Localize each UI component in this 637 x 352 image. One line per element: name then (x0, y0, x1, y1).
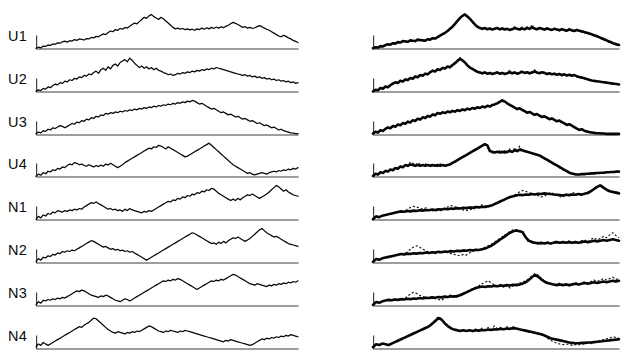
panel-axis (37, 293, 298, 306)
panel-axis (374, 36, 619, 49)
fitted-trace (373, 318, 619, 347)
panel-row-u1: U1 (0, 13, 637, 55)
panel-axis (374, 250, 619, 263)
fitted-trace (373, 59, 619, 91)
panel-row-n2: N2 (0, 227, 637, 269)
fitted-trace (373, 100, 619, 133)
residual-overlay-trace (373, 185, 619, 220)
panel-axis (37, 250, 298, 263)
observed-trace (36, 58, 298, 91)
panel-axis (37, 336, 298, 349)
panel-row-n1: N1 (0, 184, 637, 226)
panel-axis (37, 164, 298, 177)
fitted-trace (373, 185, 619, 219)
figure-root: U1U2U3U4N1N2N3N4 (0, 0, 637, 352)
panel-axis (37, 79, 298, 92)
panel-right-u4 (373, 141, 619, 181)
panel-left-n2 (36, 227, 298, 267)
panel-right-n3 (373, 270, 619, 310)
panel-right-u1 (373, 13, 619, 53)
panel-row-n3: N3 (0, 270, 637, 312)
panel-axis (374, 207, 619, 220)
panel-left-n1 (36, 184, 298, 224)
observed-trace (36, 14, 298, 48)
panel-right-u3 (373, 99, 619, 139)
panel-row-u2: U2 (0, 56, 637, 98)
fitted-trace (373, 231, 619, 262)
panel-row-u3: U3 (0, 99, 637, 141)
residual-overlay-trace (373, 144, 619, 176)
panel-left-u1 (36, 13, 298, 53)
panel-left-n4 (36, 313, 298, 352)
panel-right-n1 (373, 184, 619, 224)
panel-axis (374, 79, 619, 92)
panel-left-u2 (36, 56, 298, 96)
observed-trace (36, 274, 298, 304)
panel-row-n4: N4 (0, 313, 637, 352)
observed-trace (36, 318, 298, 347)
observed-trace (36, 185, 298, 219)
panel-right-n4 (373, 313, 619, 352)
panel-left-n3 (36, 270, 298, 310)
observed-trace (36, 143, 298, 176)
panel-row-u4: U4 (0, 141, 637, 183)
observed-trace (36, 100, 298, 133)
panel-right-u2 (373, 56, 619, 96)
panel-axis (37, 36, 298, 49)
panel-left-u3 (36, 99, 298, 139)
panel-axis (37, 122, 298, 135)
panel-left-u4 (36, 141, 298, 181)
observed-trace (36, 228, 298, 261)
fitted-trace (373, 14, 619, 48)
fitted-trace (373, 275, 619, 305)
panel-right-n2 (373, 227, 619, 267)
fitted-trace (373, 144, 619, 176)
residual-overlay-trace (373, 230, 619, 262)
panel-axis (37, 207, 298, 220)
